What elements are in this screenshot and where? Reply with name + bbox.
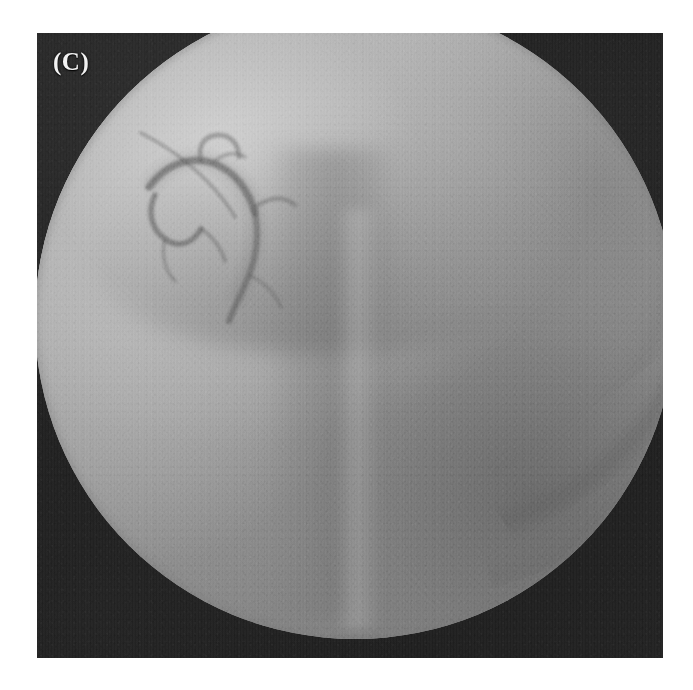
panel-label: (C) xyxy=(53,49,89,74)
field-of-view-clip xyxy=(37,33,663,658)
fov-edge-feather xyxy=(37,33,663,639)
figure-root: (C) xyxy=(0,0,693,690)
radiograph-image[interactable]: (C) xyxy=(37,33,663,658)
field-of-view-disc xyxy=(37,33,663,639)
